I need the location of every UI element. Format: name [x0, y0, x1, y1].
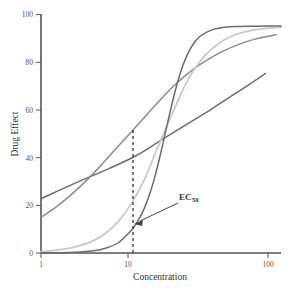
y-tick-label-60: 60: [26, 106, 34, 115]
ec50-label: EC: [179, 192, 192, 202]
chart-page: 100 80 60 40 20 0 1 10 100 Concentration…: [0, 0, 292, 288]
x-axis-title: Concentration: [133, 272, 187, 282]
y-axis-title: Drug Effect: [10, 111, 20, 156]
dose-response-chart: 100 80 60 40 20 0 1 10 100 Concentration…: [0, 0, 292, 288]
ec50-subscript: 50: [192, 196, 199, 203]
curve-hill-slope-2: [41, 27, 281, 251]
y-tick-label-20: 20: [26, 201, 34, 210]
y-tick-label-100: 100: [22, 10, 34, 19]
x-tick-label-1: 1: [39, 260, 43, 269]
y-ticks-group: 100 80 60 40 20 0: [22, 10, 41, 257]
x-ticks-group: 1 10 100: [39, 253, 274, 269]
axes-group: [41, 14, 281, 253]
x-tick-label-10: 10: [124, 260, 132, 269]
curve-hill-slope-1: [41, 35, 276, 218]
y-tick-label-40: 40: [26, 154, 34, 163]
x-tick-label-100: 100: [262, 260, 274, 269]
plot-area: 100 80 60 40 20 0 1 10 100 Concentration…: [0, 0, 292, 288]
y-tick-label-0: 0: [29, 249, 33, 258]
y-tick-label-80: 80: [26, 58, 34, 67]
series-group: [41, 26, 281, 253]
